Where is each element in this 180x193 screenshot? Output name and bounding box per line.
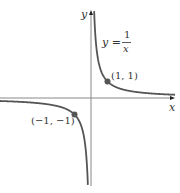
point-1-1 [105, 79, 111, 85]
equation-numerator: 1 [124, 29, 130, 40]
equation-lhs: y = [101, 36, 121, 49]
x-axis-arrow-icon [170, 96, 175, 100]
point-label-neg1-neg1: (−1, −1) [31, 115, 75, 126]
point-label-1-1: (1, 1) [111, 70, 138, 81]
equation-denominator: x [123, 43, 129, 54]
reciprocal-function-graph: y x y = 1 x (1, 1) (−1, −1) [0, 0, 180, 193]
y-axis-arrow-icon [89, 10, 93, 15]
y-axis-label: y [80, 8, 88, 21]
x-axis-label: x [169, 101, 176, 114]
